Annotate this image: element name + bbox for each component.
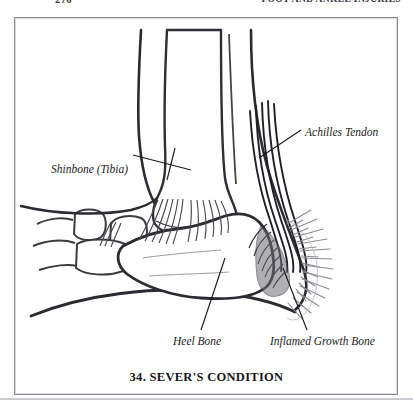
footer-rule <box>0 398 413 400</box>
label-heel-bone: Heel Bone <box>173 336 221 348</box>
figure-frame: Shinbone (Tibia) Achilles Tendon Heel Bo… <box>14 17 398 395</box>
label-inflamed-growth-bone: Inflamed Growth Bone <box>270 336 375 348</box>
growth-plate-shading <box>256 226 290 296</box>
label-achilles-tendon: Achilles Tendon <box>305 127 378 139</box>
book-page: 276 FOOT AND ANKLE INJURIES <box>0 0 413 417</box>
label-shinbone: Shinbone (Tibia) <box>51 164 128 176</box>
figure-caption: 34. SEVER'S CONDITION <box>0 370 413 385</box>
running-head-title: FOOT AND ANKLE INJURIES <box>261 0 401 4</box>
page-folio: 276 <box>55 0 72 5</box>
running-head: 276 FOOT AND ANKLE INJURIES <box>0 0 413 6</box>
fibula-bone <box>229 34 236 184</box>
